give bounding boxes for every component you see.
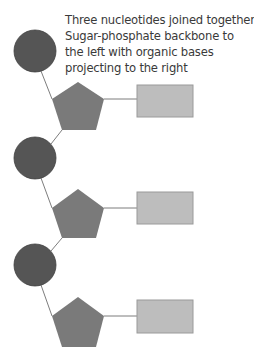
caption-line-3: the left with organic bases	[65, 44, 254, 60]
phosphate-sugar-bond	[41, 71, 52, 99]
phosphate-circle	[14, 137, 56, 179]
phosphate-circle	[14, 30, 56, 72]
phosphate-circle	[14, 244, 56, 286]
sugar-phosphate-bond	[51, 130, 62, 144]
phosphate-sugar-bond	[41, 178, 52, 208]
sugar-pentagon	[52, 297, 104, 347]
caption: Three nucleotides joined together. Sugar…	[65, 12, 254, 76]
sugar-pentagon	[52, 82, 104, 130]
base-rectangle	[137, 300, 193, 333]
sugar-pentagon	[52, 189, 104, 238]
phosphate-sugar-bond	[41, 285, 52, 316]
caption-line-1: Three nucleotides joined together.	[65, 12, 254, 28]
base-rectangle	[137, 192, 193, 224]
caption-line-4: projecting to the right	[65, 60, 254, 76]
sugar-phosphate-bond	[51, 238, 62, 251]
base-rectangle	[137, 85, 193, 117]
caption-line-2: Sugar-phosphate backbone to	[65, 28, 254, 44]
